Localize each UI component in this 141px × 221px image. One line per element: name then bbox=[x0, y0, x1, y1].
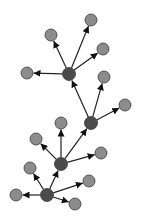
edge-arrow bbox=[97, 108, 120, 120]
leaf-node bbox=[119, 99, 131, 111]
leaf-node bbox=[21, 67, 33, 79]
leaf-node bbox=[30, 133, 42, 145]
edge-arrow bbox=[74, 53, 98, 70]
leaf-node bbox=[24, 162, 36, 174]
edge-arrow bbox=[67, 155, 94, 163]
edge-arrow bbox=[93, 83, 102, 116]
edge-arrow bbox=[53, 183, 83, 193]
hub-node bbox=[55, 158, 68, 171]
hub-node bbox=[41, 189, 54, 202]
edge-arrow bbox=[54, 41, 67, 68]
leaf-node bbox=[85, 14, 97, 26]
leaf-node bbox=[98, 71, 110, 83]
edge-arrow bbox=[65, 129, 87, 159]
leaf-node bbox=[10, 189, 22, 201]
leaf-node bbox=[45, 29, 57, 41]
edge-arrow bbox=[34, 174, 44, 190]
leaf-node bbox=[69, 198, 81, 210]
edge-arrow bbox=[53, 197, 69, 202]
leaf-node bbox=[83, 175, 95, 187]
leaf-node bbox=[55, 117, 67, 129]
edge-arrow bbox=[50, 170, 58, 189]
leaf-node bbox=[97, 43, 109, 55]
edge-arrow bbox=[41, 144, 57, 160]
leaf-node bbox=[95, 147, 107, 159]
edge-arrow bbox=[72, 80, 88, 117]
tree-diagram bbox=[0, 0, 141, 221]
hub-node bbox=[63, 68, 76, 81]
hub-node bbox=[85, 117, 98, 130]
edge-arrow bbox=[34, 73, 63, 74]
